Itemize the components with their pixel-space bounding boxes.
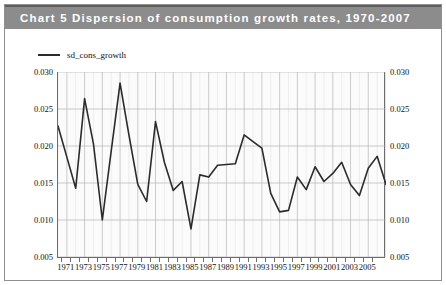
series-line-sd-cons-growth <box>58 83 386 229</box>
x-axis-tick-label: 1985 <box>181 263 198 272</box>
x-axis-tick-label: 1991 <box>235 263 252 272</box>
x-axis-tick-mark <box>177 258 178 262</box>
x-axis-tick-mark <box>70 258 71 262</box>
y-axis-tick-label: 0.030 <box>390 68 424 77</box>
x-axis-tick-mark <box>230 258 231 262</box>
x-axis-tick-mark <box>265 258 266 262</box>
x-axis-tick-mark <box>88 258 89 262</box>
x-axis-tick-mark <box>248 258 249 262</box>
x-axis-tick-label: 1971 <box>57 263 74 272</box>
x-axis-tick-mark <box>363 258 364 262</box>
x-axis-tick-label: 1979 <box>128 263 145 272</box>
x-axis-tick-label: 2003 <box>341 263 358 272</box>
x-axis-tick-mark <box>203 258 204 262</box>
x-axis-tick-mark <box>310 258 311 262</box>
x-axis-tick-mark <box>256 258 257 262</box>
x-axis-tick-mark <box>194 258 195 262</box>
y-axis-tick-label: 0.005 <box>390 253 424 262</box>
plot-area <box>57 72 385 257</box>
x-axis-tick-label: 1977 <box>111 263 128 272</box>
x-axis-tick-mark <box>150 258 151 262</box>
x-axis-tick-mark <box>168 258 169 262</box>
legend-line-swatch <box>38 54 60 56</box>
x-axis-tick-mark <box>159 258 160 262</box>
x-axis-tick-mark <box>212 258 213 262</box>
x-axis-tick-mark <box>239 258 240 262</box>
x-axis-tick-mark <box>354 258 355 262</box>
y-axis-tick-label: 0.010 <box>390 216 424 225</box>
x-axis-tick-mark <box>106 258 107 262</box>
x-axis-tick-mark <box>318 258 319 262</box>
x-axis-tick-label: 1983 <box>164 263 181 272</box>
chart-figure: Chart 5 Dispersion of consumption growth… <box>0 0 446 285</box>
y-axis-tick-label: 0.020 <box>19 142 53 151</box>
plot-canvas <box>58 72 386 257</box>
y-axis-tick-label: 0.025 <box>390 105 424 114</box>
y-axis-tick-label: 0.005 <box>19 253 53 262</box>
chart-title-band: Chart 5 Dispersion of consumption growth… <box>5 5 441 29</box>
y-axis-tick-label: 0.030 <box>19 68 53 77</box>
x-axis-tick-mark <box>141 258 142 262</box>
x-axis-tick-label: 1981 <box>146 263 163 272</box>
x-axis-tick-mark <box>61 258 62 262</box>
page-title: Chart 5 Dispersion of consumption growth… <box>20 12 411 24</box>
x-axis-tick-label: 1993 <box>252 263 269 272</box>
x-axis-tick-mark <box>186 258 187 262</box>
y-axis-tick-label: 0.025 <box>19 105 53 114</box>
x-axis-tick-mark <box>132 258 133 262</box>
y-axis-tick-label: 0.010 <box>19 216 53 225</box>
x-axis-tick-mark <box>79 258 80 262</box>
chart-legend: sd_cons_growth <box>38 50 126 60</box>
legend-item-label: sd_cons_growth <box>67 50 126 60</box>
x-axis-tick-mark <box>301 258 302 262</box>
x-axis-tick-mark <box>327 258 328 262</box>
y-axis-tick-label: 0.015 <box>390 179 424 188</box>
y-axis-tick-label: 0.015 <box>19 179 53 188</box>
y-axis-tick-label: 0.020 <box>390 142 424 151</box>
x-axis-tick-mark <box>97 258 98 262</box>
x-axis-tick-label: 1999 <box>306 263 323 272</box>
x-axis-tick-label: 2005 <box>359 263 376 272</box>
x-axis-tick-label: 1975 <box>93 263 110 272</box>
x-axis-tick-label: 1997 <box>288 263 305 272</box>
x-axis-tick-label: 2001 <box>323 263 340 272</box>
x-axis-tick-mark <box>292 258 293 262</box>
x-axis-tick-mark <box>221 258 222 262</box>
x-axis-tick-label: 1989 <box>217 263 234 272</box>
x-axis-tick-mark <box>123 258 124 262</box>
x-axis-tick-mark <box>345 258 346 262</box>
x-axis-tick-mark <box>115 258 116 262</box>
x-axis-tick-label: 1987 <box>199 263 216 272</box>
x-axis-tick-mark <box>336 258 337 262</box>
x-axis-tick-label: 1973 <box>75 263 92 272</box>
x-axis-tick-mark <box>372 258 373 262</box>
x-axis-tick-mark <box>274 258 275 262</box>
x-axis-tick-mark <box>283 258 284 262</box>
x-axis-tick-label: 1995 <box>270 263 287 272</box>
